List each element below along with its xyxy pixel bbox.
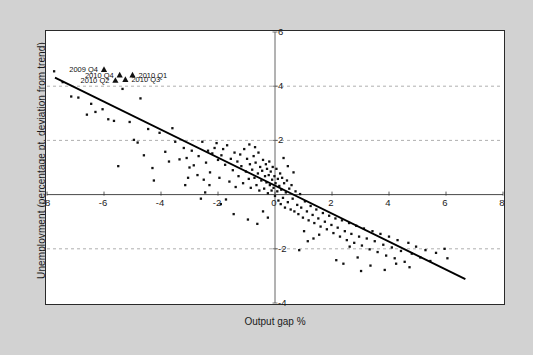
scatter-plot-svg	[46, 31, 504, 304]
data-point	[258, 189, 260, 191]
data-point	[344, 230, 346, 232]
x-axis-title: Output gap %	[45, 316, 505, 327]
data-point	[350, 233, 352, 235]
data-point	[196, 174, 198, 176]
data-point	[252, 155, 254, 157]
data-point	[257, 172, 259, 174]
data-point	[326, 228, 328, 230]
x-axis-tick-label: 6	[442, 197, 447, 208]
data-point	[77, 96, 79, 98]
data-point	[277, 199, 279, 201]
data-point	[371, 230, 373, 232]
data-point	[248, 178, 250, 180]
data-point	[385, 254, 387, 256]
data-point	[446, 257, 448, 259]
data-point	[282, 157, 284, 159]
data-point	[424, 249, 426, 251]
data-point	[268, 160, 270, 162]
data-point	[384, 269, 386, 271]
data-point	[339, 235, 341, 237]
data-point	[317, 217, 319, 219]
data-point	[298, 249, 300, 251]
data-point	[272, 166, 274, 168]
data-point	[237, 175, 239, 177]
data-point	[270, 189, 272, 191]
data-point	[281, 177, 283, 179]
triangle-marker	[122, 76, 128, 82]
data-point	[168, 160, 170, 162]
data-point	[263, 187, 265, 189]
data-point	[246, 158, 248, 160]
data-point	[147, 128, 149, 130]
data-point	[435, 252, 437, 254]
data-point	[121, 88, 123, 90]
data-point	[201, 141, 203, 143]
data-point	[404, 261, 406, 263]
data-point	[251, 169, 253, 171]
data-point	[280, 203, 282, 205]
data-point	[369, 264, 371, 266]
data-point	[205, 161, 207, 163]
data-point	[262, 159, 264, 161]
data-point	[396, 239, 398, 241]
data-point	[391, 246, 393, 248]
data-point	[376, 251, 378, 253]
data-point	[288, 187, 290, 189]
data-point	[262, 210, 264, 212]
data-point	[382, 244, 384, 246]
data-point	[307, 240, 309, 242]
y-axis-tick-label: 4	[278, 80, 283, 91]
x-axis-tick-label: 2	[328, 197, 333, 208]
data-point	[287, 165, 289, 167]
data-point	[174, 141, 176, 143]
data-point	[209, 171, 211, 173]
data-point	[257, 151, 259, 153]
data-point	[239, 153, 241, 155]
data-point	[358, 235, 360, 237]
data-point	[233, 213, 235, 215]
data-point	[228, 180, 230, 182]
data-point	[171, 127, 173, 129]
data-point	[217, 159, 219, 161]
data-point	[287, 201, 289, 203]
data-point	[204, 191, 206, 193]
data-point	[151, 167, 153, 169]
data-point	[324, 221, 326, 223]
data-point	[133, 139, 135, 141]
data-point	[366, 237, 368, 239]
data-point	[187, 177, 189, 179]
data-point	[299, 193, 301, 195]
data-point	[188, 166, 190, 168]
x-axis-tick-label: -8	[42, 197, 50, 208]
data-point	[249, 163, 251, 165]
data-point	[322, 212, 324, 214]
data-point	[197, 155, 199, 157]
data-point	[274, 182, 276, 184]
data-point	[394, 257, 396, 259]
data-point	[346, 239, 348, 241]
data-point	[113, 120, 115, 122]
data-point	[379, 233, 381, 235]
data-point	[309, 205, 311, 207]
data-point	[286, 179, 288, 181]
data-point	[300, 206, 302, 208]
data-point	[164, 151, 166, 153]
data-point	[136, 141, 138, 143]
data-point	[266, 168, 268, 170]
data-point	[284, 206, 286, 208]
data-point	[360, 270, 362, 272]
data-point	[254, 161, 256, 163]
data-point	[222, 148, 224, 150]
y-axis-tick-label: 2	[278, 134, 283, 145]
data-point	[254, 146, 256, 148]
data-point	[247, 218, 249, 220]
data-point	[267, 192, 269, 194]
data-point	[225, 198, 227, 200]
data-point	[293, 210, 295, 212]
data-point	[361, 244, 363, 246]
x-axis-tick-label: -6	[99, 197, 107, 208]
data-point	[415, 245, 417, 247]
data-point	[311, 214, 313, 216]
data-point	[328, 215, 330, 217]
data-point	[178, 158, 180, 160]
